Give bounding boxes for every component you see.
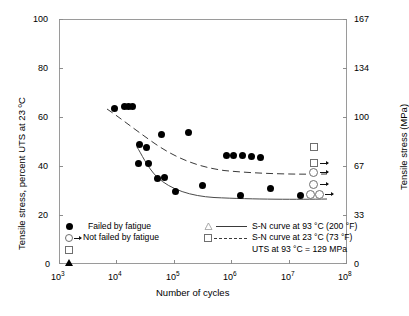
legend-solid-line-icon — [216, 226, 247, 227]
data-point — [111, 105, 118, 112]
data-point — [297, 192, 304, 199]
legend-filled-circle-icon — [66, 223, 73, 230]
open-square-marker — [310, 143, 318, 151]
legend-dashed-line-icon — [214, 238, 247, 239]
x-axis-title: Number of cycles — [156, 287, 229, 298]
legend-label-sn-23c: S-N curve at 23 °C (73 °F) — [252, 232, 352, 242]
data-point — [239, 152, 246, 159]
data-point — [172, 188, 179, 195]
data-point — [136, 141, 143, 148]
y-axis-left-title: Tensile stress, percent UTS at 23 ºC — [16, 97, 27, 250]
data-point — [267, 185, 274, 192]
data-point — [161, 174, 168, 181]
legend-filled-triangle-icon — [65, 259, 73, 266]
data-point — [154, 175, 161, 182]
x-tick-base: 10 — [338, 272, 348, 282]
legend-open-circle-icon — [65, 234, 73, 242]
runout-circle-marker — [309, 168, 318, 177]
runout-arrow — [320, 184, 328, 185]
legend-label-failed: Failed by fatigue — [88, 221, 151, 231]
runout-square-marker — [310, 159, 318, 167]
y-left-tick-0: 0 — [45, 259, 50, 269]
x-tick-base: 10 — [51, 272, 61, 282]
y-left-tick-20: 20 — [38, 210, 48, 220]
y-right-tick-167: 167 — [354, 14, 369, 24]
data-point — [135, 160, 142, 167]
data-point — [199, 182, 206, 189]
data-point — [143, 144, 150, 151]
y-left-tick-100: 100 — [33, 14, 48, 24]
x-tick-base: 10 — [281, 272, 291, 282]
runout-arrow — [325, 194, 333, 195]
legend-label-not-failed: Not failed by fatigue — [83, 232, 159, 242]
data-point — [158, 131, 165, 138]
y-axis-right-title: Tensile stress (MPa) — [398, 104, 409, 190]
legend-label-uts: UTS at 93 °C = 129 MPa — [252, 244, 347, 254]
data-point — [185, 129, 192, 136]
runout-arrow — [320, 163, 328, 164]
chart-legend: Failed by fatigue Not failed by fatigue … — [60, 220, 360, 272]
data-point — [237, 192, 244, 199]
runout-arrow — [320, 172, 328, 173]
legend-open-square-icon — [65, 246, 73, 254]
data-point — [145, 160, 152, 167]
y-right-tick-67: 67 — [354, 161, 364, 171]
y-left-tick-60: 60 — [38, 112, 48, 122]
y-left-tick-40: 40 — [38, 161, 48, 171]
data-point — [223, 152, 230, 159]
runout-circle-marker — [309, 180, 318, 189]
data-point — [230, 152, 237, 159]
data-point — [129, 103, 136, 110]
legend-open-square-line-icon — [204, 234, 212, 242]
y-right-tick-33: 33 — [354, 210, 364, 220]
x-tick-base: 10 — [223, 272, 233, 282]
x-tick-base: 10 — [166, 272, 176, 282]
x-tick-base: 10 — [108, 272, 118, 282]
legend-open-triangle-glyph — [204, 222, 213, 231]
y-right-tick-134: 134 — [354, 63, 369, 73]
runout-circle-marker — [315, 190, 324, 199]
legend-label-sn-93c: S-N curve at 93 °C (200 °F) — [252, 221, 357, 231]
y-left-tick-80: 80 — [38, 63, 48, 73]
y-right-tick-100: 100 — [354, 112, 369, 122]
data-point — [248, 153, 255, 160]
runout-circle-marker — [306, 190, 315, 199]
legend-runout-arrow-icon — [74, 238, 81, 239]
data-point — [257, 154, 264, 161]
